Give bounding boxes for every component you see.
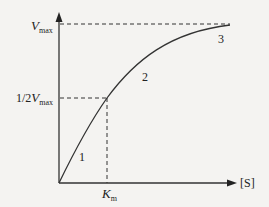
x-axis-label: [S] xyxy=(240,176,255,190)
x-axis-arrow-icon xyxy=(227,180,237,187)
michaelis-menten-diagram: Vmax 1/2Vmax Km [S] 1 2 3 xyxy=(0,0,269,207)
region-3-label: 3 xyxy=(218,32,224,46)
region-2-label: 2 xyxy=(142,70,148,84)
km-label: Km xyxy=(101,186,118,203)
region-1-label: 1 xyxy=(79,150,85,164)
vmax-label: Vmax xyxy=(31,18,53,35)
half-vmax-label: 1/2Vmax xyxy=(16,90,53,107)
y-axis-arrow-icon xyxy=(56,12,63,22)
